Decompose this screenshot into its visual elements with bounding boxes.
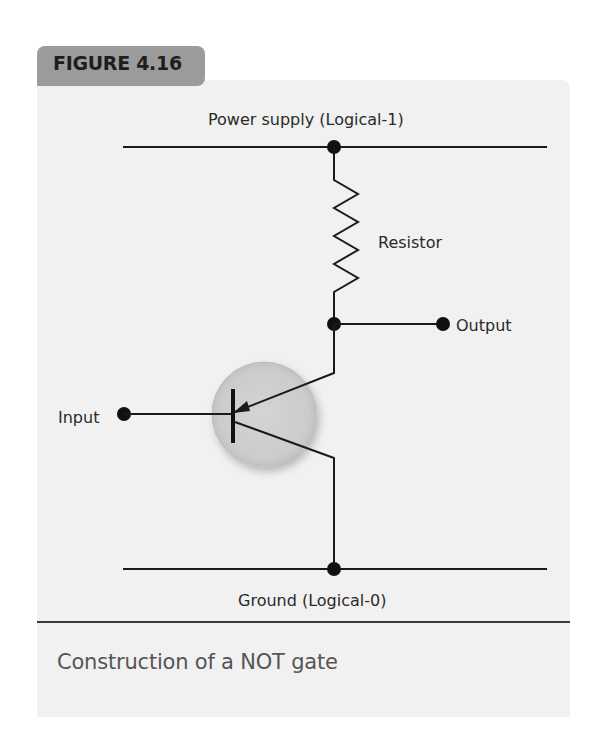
output-label: Output — [456, 316, 512, 335]
caption-divider — [37, 621, 570, 623]
ground-label: Ground (Logical-0) — [238, 591, 386, 610]
input-label: Input — [58, 408, 99, 427]
resistor-label: Resistor — [378, 233, 442, 252]
ground-node-dot — [327, 562, 341, 576]
figure-caption: Construction of a NOT gate — [57, 650, 338, 674]
resistor-symbol — [334, 147, 358, 325]
output-terminal-dot — [436, 317, 450, 331]
not-gate-circuit-diagram: Power supply (Logical-1) Resistor Output… — [0, 0, 596, 748]
power-supply-label: Power supply (Logical-1) — [208, 110, 404, 129]
